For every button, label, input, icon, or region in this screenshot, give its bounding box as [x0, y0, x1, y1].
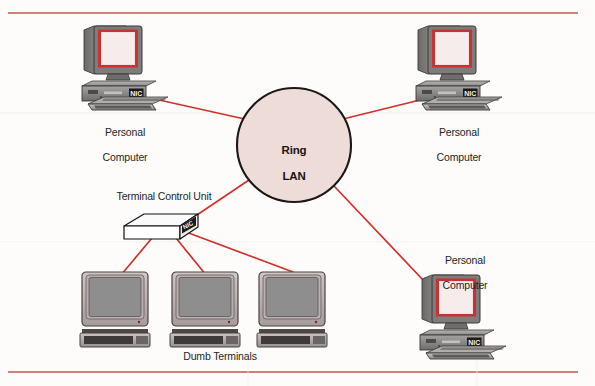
dumb-terminal-2 [170, 272, 240, 347]
dumb-terminal-1 [80, 272, 150, 347]
pc-top-right-label: Personal Computer [418, 113, 500, 163]
diagram-canvas: NIC NIC [0, 0, 595, 386]
pc-bottom-right-label: Personal Computer [424, 241, 506, 291]
pc-top-right-label-line2: Computer [437, 151, 482, 163]
pc-top-right: NIC [416, 26, 502, 110]
pc-bottom-right-label-line2: Computer [443, 279, 488, 291]
link-tcu-to-terminal-2 [176, 238, 206, 275]
pc-top-left: NIC [82, 26, 168, 110]
pc-bottom-right-label-line1: Personal [445, 254, 485, 266]
link-tcu-to-terminal-3 [186, 232, 293, 272]
network-diagram-svg: NIC NIC [0, 0, 595, 386]
ring-lan-label-line2: LAN [282, 170, 305, 182]
pc-top-left-label: Personal Computer [84, 113, 166, 163]
svg-text:NIC: NIC [130, 90, 142, 97]
pc-top-left-label-line2: Computer [103, 151, 148, 163]
ring-lan-label-line1: Ring [282, 144, 307, 156]
link-pc-top-right-to-ring [339, 100, 420, 120]
ring-lan-label: Ring LAN [264, 131, 324, 183]
pc-top-right-label-line1: Personal [439, 126, 479, 138]
link-pc-bottom-right-to-ring [334, 186, 424, 281]
link-tcu-to-terminal-1 [121, 238, 152, 275]
svg-text:NIC: NIC [464, 90, 476, 97]
svg-text:NIC: NIC [468, 339, 480, 346]
terminal-control-unit-label: Terminal Control Unit [108, 190, 220, 203]
pc-top-left-label-line1: Personal [105, 126, 145, 138]
dumb-terminals-label: Dumb Terminals [160, 350, 280, 363]
terminal-control-unit-node: NIC [124, 214, 198, 239]
link-pc-top-left-to-ring [159, 100, 249, 120]
dumb-terminal-3 [257, 272, 327, 347]
